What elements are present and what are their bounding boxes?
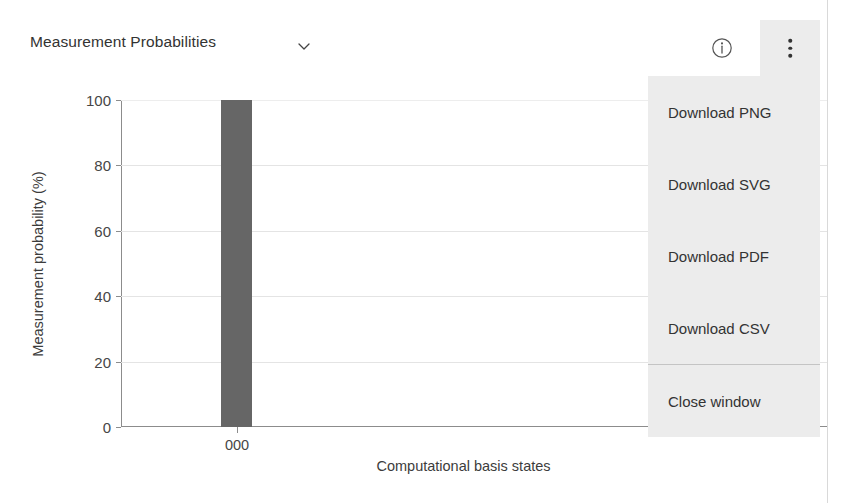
chevron-down-icon[interactable] <box>296 38 312 54</box>
y-tick-label: 0 <box>103 419 111 436</box>
panel-right-border <box>827 0 828 503</box>
y-tick-label: 40 <box>94 288 111 305</box>
page-title: Measurement Probabilities <box>30 33 216 51</box>
chart-options-menu: Download PNGDownload SVGDownload PDFDown… <box>648 76 820 437</box>
menu-item-download-png[interactable]: Download PNG <box>648 76 820 148</box>
kebab-dot <box>788 54 792 58</box>
info-circle-icon[interactable] <box>710 36 734 60</box>
x-axis-label: Computational basis states <box>0 458 827 474</box>
y-tick-label: 60 <box>94 222 111 239</box>
menu-item-download-svg[interactable]: Download SVG <box>648 148 820 220</box>
y-tick-mark <box>116 165 121 166</box>
kebab-dots <box>788 39 792 58</box>
y-tick-label: 80 <box>94 157 111 174</box>
y-axis-line <box>121 100 122 427</box>
y-tick-mark <box>116 427 121 428</box>
x-tick-mark <box>237 427 238 433</box>
y-tick-mark <box>116 231 121 232</box>
menu-item-download-csv[interactable]: Download CSV <box>648 292 820 364</box>
bar[interactable] <box>221 100 252 427</box>
x-axis-label-text: Computational basis states <box>376 458 550 474</box>
y-tick-mark <box>116 362 121 363</box>
kebab-dot <box>788 39 792 43</box>
menu-item-download-pdf[interactable]: Download PDF <box>648 220 820 292</box>
measurement-probabilities-panel: Measurement Probabilities Measurement pr… <box>0 0 851 503</box>
menu-item-close-window[interactable]: Close window <box>648 365 820 437</box>
y-tick-mark <box>116 296 121 297</box>
y-tick-label: 100 <box>86 92 111 109</box>
y-tick-label: 20 <box>94 353 111 370</box>
x-tick-label: 000 <box>225 437 249 453</box>
panel-header: Measurement Probabilities <box>0 0 827 76</box>
y-tick-mark <box>116 100 121 101</box>
more-vertical-icon[interactable] <box>760 20 820 76</box>
y-axis-label: Measurement probability (%) <box>30 171 46 356</box>
kebab-dot <box>788 46 792 50</box>
